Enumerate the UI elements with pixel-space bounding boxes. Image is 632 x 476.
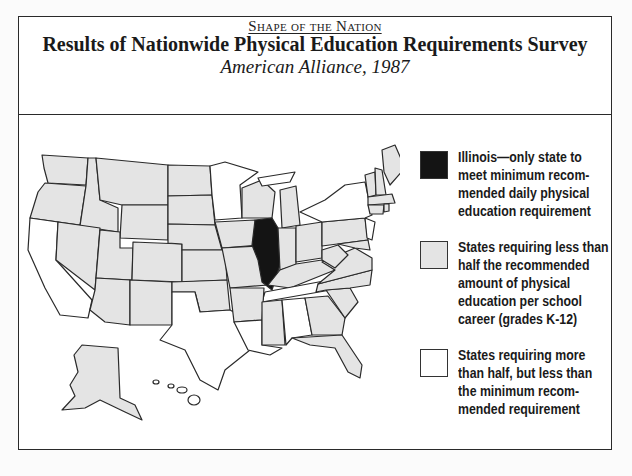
- figure-title: Results of Nationwide Physical Education…: [19, 33, 611, 56]
- state-new-york: [300, 182, 372, 222]
- state-florida: [292, 335, 362, 378]
- legend-line: Illinois—only state to: [458, 148, 616, 166]
- figure-source: American Alliance, 1987: [19, 56, 611, 78]
- state-connecticut: [368, 205, 384, 214]
- state-ohio: [296, 222, 322, 262]
- legend-item-illinois: Illinois—only state to meet minimum reco…: [420, 148, 448, 179]
- gray-swatch: [420, 241, 448, 269]
- state-kansas: [182, 250, 227, 282]
- state-hawaii-oahu: [168, 384, 174, 388]
- legend-line: half the recommended: [458, 256, 616, 274]
- legend-line: States requiring less than: [458, 238, 616, 256]
- state-michigan-up: [258, 172, 295, 186]
- state-michigan: [280, 186, 300, 228]
- state-wisconsin: [242, 180, 275, 218]
- legend-item-more-than-half: States requiring more than half, but les…: [420, 346, 448, 377]
- legend-line: States requiring more: [458, 346, 616, 364]
- state-wyoming: [120, 205, 168, 240]
- legend-line: amount of physical: [458, 274, 616, 292]
- legend-line: the minimum recom-: [458, 382, 616, 400]
- white-swatch: [420, 349, 448, 377]
- legend-line: than half, but less than: [458, 364, 616, 382]
- state-hawaii-kauai: [153, 380, 159, 384]
- legend-line: mended requirement: [458, 400, 616, 418]
- state-maine: [382, 145, 400, 185]
- state-montana: [96, 158, 168, 205]
- state-alaska: [62, 345, 142, 420]
- state-south-dakota: [168, 195, 215, 225]
- state-hawaii-maui: [177, 387, 187, 393]
- us-map: [0, 100, 400, 430]
- black-swatch: [420, 151, 448, 179]
- legend-line: mended daily physical: [458, 184, 616, 202]
- state-mississippi: [262, 300, 285, 345]
- state-indiana: [278, 228, 296, 270]
- state-new-jersey: [365, 218, 375, 240]
- state-colorado: [132, 242, 182, 282]
- state-north-dakota: [168, 165, 212, 196]
- legend-line: education requirement: [458, 202, 616, 220]
- legend-line: career (grades K-12): [458, 310, 616, 328]
- legend-line: meet minimum recom-: [458, 166, 616, 184]
- state-rhode-island: [384, 204, 389, 212]
- state-new-mexico: [130, 280, 172, 325]
- legend-item-less-than-half: States requiring less than half the reco…: [420, 238, 448, 269]
- state-arkansas: [230, 288, 264, 322]
- state-arizona: [90, 278, 130, 325]
- state-hawaii-island: [188, 395, 200, 405]
- legend-line: education per school: [458, 292, 616, 310]
- state-washington: [42, 155, 88, 185]
